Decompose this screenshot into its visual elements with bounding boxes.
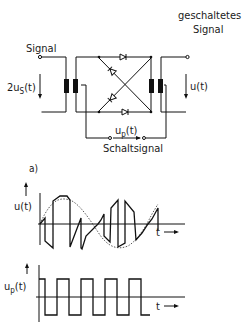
switch-voltage-label: up(t) (115, 124, 138, 139)
subfigure-label: a) (29, 163, 38, 174)
plot-bottom-xlabel: t (156, 300, 160, 313)
transformer-core-right-a (149, 79, 154, 93)
diode-top-icon (120, 54, 126, 60)
diode-bottom-icon (122, 109, 128, 115)
input-voltage-label: 2uS(t) (7, 81, 36, 96)
switch-signal-label: Schaltsignal (103, 142, 163, 155)
plot-top-ylabel: u(t) (14, 200, 32, 213)
output-terminal (186, 55, 189, 58)
input-signal-label: Signal (26, 42, 56, 55)
output-label-line1: geschaltetes (178, 9, 241, 22)
transformer-core-left-a (64, 79, 69, 93)
plot-switched-signal: u(t) t (14, 182, 185, 249)
circuit-and-waveforms: Signal 2uS(t) geschaltetes Signal u(t) u… (0, 0, 244, 334)
input-terminal (38, 55, 41, 58)
output-voltage-label: u(t) (190, 80, 208, 93)
plot-switching-signal: up(t) t (4, 263, 185, 322)
plot-bottom-ylabel: up(t) (4, 280, 27, 295)
transformer-core-right-b (158, 79, 163, 93)
output-label-line2: Signal (193, 23, 223, 36)
transformer-core-left-b (73, 79, 78, 93)
